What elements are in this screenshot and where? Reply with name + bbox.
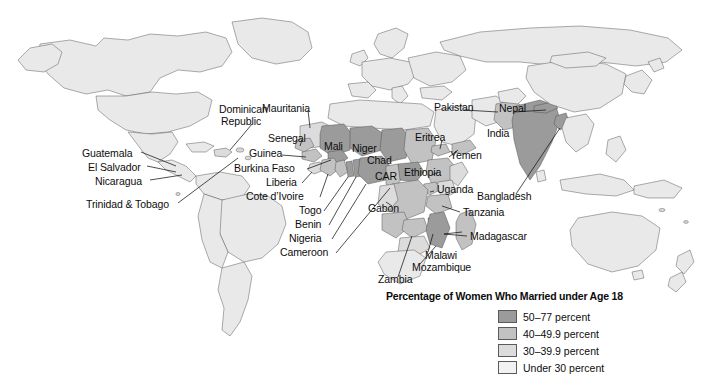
country-dominican-republic: [214, 148, 232, 157]
legend-item-50-77: 50–77 percent: [386, 309, 686, 324]
map-label-chad: Chad: [367, 155, 392, 167]
leader-cote-divoire: [320, 174, 328, 197]
map-label-eritrea: Eritrea: [415, 132, 445, 144]
map-label-mozambique: Mozambique: [412, 262, 471, 274]
country-central-america: [158, 160, 196, 182]
world-map-figure: Dominican Republic Guatemala El Salvador…: [0, 0, 704, 383]
country-caribbean-cuba: [186, 142, 214, 152]
country-southeast-asia: [562, 114, 594, 152]
map-label-liberia: Liberia: [266, 177, 297, 189]
map-legend: Percentage of Women Who Married under Ag…: [386, 290, 686, 377]
country-greenland: [232, 18, 312, 64]
island-indonesia: [560, 174, 634, 196]
legend-label-40-49: 40–49.9 percent: [523, 328, 599, 340]
island-puerto-rico: [236, 148, 244, 152]
map-label-ethiopia: Ethiopia: [404, 167, 441, 179]
leader-liberia: [302, 172, 312, 183]
country-new-zealand: [676, 250, 694, 274]
map-label-niger: Niger: [352, 143, 377, 155]
map-label-senegal: Senegal: [268, 133, 306, 145]
map-label-cameroon: Cameroon: [280, 247, 328, 259]
map-label-nepal: Nepal: [499, 103, 526, 115]
legend-item-30-39: 30–39.9 percent: [386, 343, 686, 358]
country-zambia: [402, 218, 428, 238]
map-label-dominican: Dominican: [219, 104, 268, 116]
map-label-mali: Mali: [324, 141, 343, 153]
map-label-malawi: Malawi: [425, 250, 457, 262]
country-italy: [392, 86, 408, 104]
legend-title: Percentage of Women Who Married under Ag…: [386, 290, 686, 302]
map-label-car: CAR: [375, 171, 397, 183]
map-label-cote-divoire: Cote d’Ivoire: [246, 191, 304, 203]
map-label-nigeria: Nigeria: [289, 233, 322, 245]
map-label-uganda: Uganda: [437, 184, 473, 196]
map-label-republic: Republic: [221, 116, 261, 128]
country-turkey: [420, 86, 452, 100]
legend-swatch-30-39: [498, 344, 517, 357]
leader-nicaragua: [150, 175, 182, 180]
country-usa: [96, 92, 212, 134]
country-new-zealand-south: [668, 272, 686, 292]
map-label-burkina-faso: Burkina Faso: [234, 163, 295, 175]
map-label-yemen: Yemen: [450, 150, 482, 162]
island-galapagos: [176, 192, 180, 195]
legend-item-40-49: 40–49.9 percent: [386, 326, 686, 341]
legend-swatch-40-49: [498, 327, 517, 340]
legend-label-50-77: 50–77 percent: [523, 311, 590, 323]
map-label-benin: Benin: [295, 219, 321, 231]
country-korea-japan: [624, 70, 652, 94]
map-label-guinea: Guinea: [249, 148, 282, 160]
map-label-mauritania: Mauritania: [262, 103, 310, 115]
country-argentina-chile: [218, 262, 252, 336]
map-label-gabon: Gabon: [368, 203, 399, 215]
island-sri-lanka: [536, 170, 546, 182]
country-canada: [38, 32, 232, 96]
map-label-guatemala: Guatemala: [82, 148, 132, 160]
country-australia: [570, 212, 660, 272]
map-label-india: India: [487, 128, 509, 140]
map-label-pakistan: Pakistan: [434, 102, 473, 114]
island-new-guinea: [634, 180, 682, 198]
map-label-tanzania: Tanzania: [463, 207, 504, 219]
country-tasmania: [632, 270, 644, 280]
region-asia: [434, 52, 682, 198]
map-label-zambia: Zambia: [378, 274, 412, 286]
country-tanzania: [426, 194, 452, 214]
country-togo: [346, 161, 354, 177]
legend-label-under-30: Under 30 percent: [523, 362, 604, 374]
country-mexico: [128, 132, 178, 162]
leader-togo: [324, 177, 348, 211]
country-mozambique: [426, 212, 450, 248]
map-label-trinidad-tobago: Trinidad & Tobago: [86, 199, 169, 211]
region-eastern-europe: [408, 52, 466, 86]
region-oceania: [570, 208, 694, 292]
legend-swatch-50-77: [498, 310, 517, 323]
map-label-madagascar: Madagascar: [470, 231, 527, 243]
legend-label-30-39: 30–39.9 percent: [523, 345, 599, 357]
map-label-nicaragua: Nicaragua: [95, 176, 142, 188]
map-label-togo: Togo: [299, 205, 321, 217]
island-fiji: [684, 221, 689, 224]
map-label-bangladesh: Bangladesh: [477, 191, 531, 203]
legend-item-under-30: Under 30 percent: [386, 360, 686, 375]
country-scandinavia: [374, 28, 408, 58]
map-label-el-salvador: El Salvador: [88, 162, 141, 174]
legend-swatch-under-30: [498, 361, 517, 374]
island-solomon: [659, 208, 665, 211]
island-philippines: [606, 136, 626, 162]
